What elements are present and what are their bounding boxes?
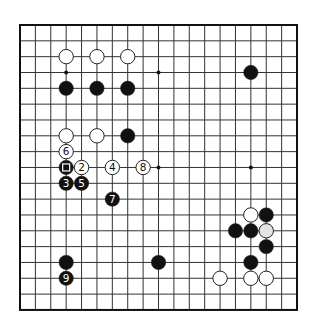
stone [59, 49, 73, 63]
stone [59, 160, 73, 174]
white-stone-icon [244, 271, 258, 285]
numbered-stone: 4 [105, 160, 119, 174]
numbered-stone: 3 [59, 176, 73, 190]
white-stone-icon [213, 271, 227, 285]
move-number: 2 [78, 161, 85, 173]
stone [59, 129, 73, 143]
stone [59, 81, 73, 95]
star-point [157, 70, 161, 74]
numbered-stone: 5 [74, 176, 88, 190]
black-stone-icon [244, 224, 258, 238]
black-stone-icon [259, 208, 273, 222]
black-stone-icon [259, 239, 273, 253]
white-stone-icon [244, 208, 258, 222]
stone [90, 49, 104, 63]
white-stone-icon [259, 271, 273, 285]
stone [259, 239, 273, 253]
move-number: 7 [109, 193, 116, 205]
stone [121, 81, 135, 95]
star-point [64, 70, 68, 74]
black-stone-icon [151, 255, 165, 269]
black-stone-icon [244, 255, 258, 269]
star-point [249, 165, 253, 169]
stone [259, 224, 273, 238]
black-stone-icon [59, 160, 73, 174]
stone [259, 271, 273, 285]
star-point [157, 165, 161, 169]
black-stone-icon [90, 81, 104, 95]
stone [121, 129, 135, 143]
white-stone-icon [90, 129, 104, 143]
numbered-stone: 7 [105, 192, 119, 206]
black-stone-icon [244, 65, 258, 79]
black-stone-icon [121, 81, 135, 95]
move-number: 9 [63, 272, 70, 284]
move-number: 3 [63, 177, 70, 189]
black-stone-icon [121, 129, 135, 143]
stone [213, 271, 227, 285]
stone [121, 49, 135, 63]
numbered-stone: 6 [59, 144, 73, 158]
stone [244, 65, 258, 79]
stone [59, 255, 73, 269]
stone [151, 255, 165, 269]
stone [244, 271, 258, 285]
black-stone-icon [59, 255, 73, 269]
stone [90, 81, 104, 95]
white-stone-icon [59, 49, 73, 63]
stone [244, 208, 258, 222]
stone [244, 224, 258, 238]
go-board: 62483579 [0, 0, 319, 330]
move-number: 5 [78, 177, 85, 189]
stone [244, 255, 258, 269]
numbered-stone: 8 [136, 160, 150, 174]
black-stone-icon [59, 81, 73, 95]
black-stone-icon [228, 224, 242, 238]
numbered-stone: 9 [59, 271, 73, 285]
white-stone-icon [90, 49, 104, 63]
move-number: 4 [109, 161, 116, 173]
stone [228, 224, 242, 238]
move-number: 6 [63, 145, 70, 157]
grey-stone-icon [259, 224, 273, 238]
move-number: 8 [140, 161, 147, 173]
white-stone-icon [59, 129, 73, 143]
stone [259, 208, 273, 222]
stone [90, 129, 104, 143]
numbered-stone: 2 [74, 160, 88, 174]
white-stone-icon [121, 49, 135, 63]
